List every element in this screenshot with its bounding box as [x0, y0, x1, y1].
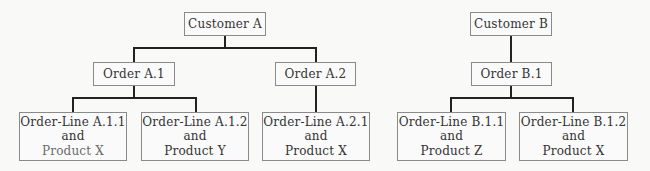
- node-label: Order B.1: [481, 67, 543, 82]
- connector-orderline-b11-up: [450, 97, 452, 112]
- product-label: Product Z: [421, 144, 483, 159]
- node-customer-b: Customer B: [470, 12, 552, 36]
- node-orderline-a12: Order-Line A.1.2 and Product Y: [141, 112, 249, 161]
- node-orderline-a21: Order-Line A.2.1 and Product X: [262, 112, 370, 161]
- orderline-label: Order-Line B.1.1: [399, 115, 505, 130]
- orderline-conjunction: and: [61, 129, 84, 144]
- orderline-label: Order-Line A.2.1: [263, 115, 368, 130]
- node-label: Order A.2: [285, 67, 347, 82]
- node-order-b1: Order B.1: [471, 62, 552, 86]
- connector-customer-a-horizontal: [133, 47, 317, 49]
- node-order-a2: Order A.2: [275, 62, 356, 86]
- node-customer-a: Customer A: [184, 12, 266, 36]
- product-label: Product X: [42, 144, 104, 159]
- connector-order-a2-down: [315, 85, 317, 112]
- orderline-label: Order-Line B.1.2: [521, 115, 627, 130]
- node-label: Customer A: [188, 17, 262, 32]
- connector-orderline-a12-up: [195, 97, 197, 112]
- node-orderline-b12: Order-Line B.1.2 and Product X: [519, 112, 628, 161]
- orderline-conjunction: and: [304, 129, 327, 144]
- product-label: Product Y: [164, 144, 226, 159]
- connector-order-a2-up: [315, 47, 317, 62]
- node-label: Order A.1: [103, 67, 165, 82]
- node-orderline-b11: Order-Line B.1.1 and Product Z: [397, 112, 506, 161]
- orderline-conjunction: and: [562, 129, 585, 144]
- node-label: Customer B: [474, 17, 548, 32]
- connector-order-a1-up: [133, 47, 135, 62]
- product-label: Product X: [285, 144, 347, 159]
- orderline-conjunction: and: [440, 129, 463, 144]
- orderline-label: Order-Line A.1.2: [142, 115, 247, 130]
- orderline-conjunction: and: [183, 129, 206, 144]
- product-label: Product X: [542, 144, 604, 159]
- connector-orderline-a11-up: [72, 97, 74, 112]
- connector-orderline-b12-up: [572, 97, 574, 112]
- orderline-label: Order-Line A.1.1: [20, 115, 125, 130]
- connector-order-a1-horizontal: [72, 97, 197, 99]
- node-orderline-a11: Order-Line A.1.1 and Product X: [19, 112, 127, 161]
- node-order-a1: Order A.1: [93, 62, 175, 86]
- connector-customer-b-down: [510, 35, 512, 62]
- connector-order-b1-horizontal: [450, 97, 574, 99]
